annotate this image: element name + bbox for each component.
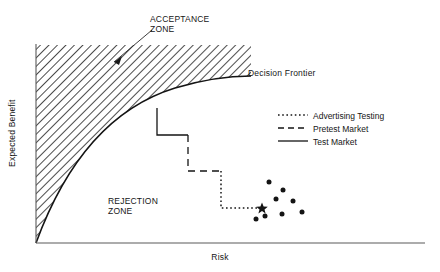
dot <box>254 217 259 222</box>
dot <box>267 180 272 185</box>
figure-canvas: ACCEPTANCE ZONE REJECTION ZONE Decision … <box>0 0 440 272</box>
rejection-zone-label: REJECTION ZONE <box>108 196 158 217</box>
scatter-dots <box>254 180 305 222</box>
dot <box>291 199 296 204</box>
y-axis-label: Expected Benefit <box>7 93 17 173</box>
legend-item-test-market: Test Market <box>313 137 357 147</box>
marker-star <box>256 203 268 214</box>
series-pretest-market <box>188 135 221 171</box>
dot <box>281 188 286 193</box>
dot <box>263 214 268 219</box>
chart-svg <box>0 0 440 272</box>
dot <box>280 212 285 217</box>
series-test-market <box>157 108 188 135</box>
legend-swatches <box>278 115 308 141</box>
dot <box>300 210 305 215</box>
series-advertising-testing <box>221 171 262 208</box>
decision-frontier-label: Decision Frontier <box>248 68 316 78</box>
legend-item-pretest-market: Pretest Market <box>313 124 368 134</box>
dot <box>274 197 279 202</box>
x-axis-label: Risk <box>0 252 440 262</box>
legend-item-advertising-testing: Advertising Testing <box>313 111 384 121</box>
acceptance-zone-label: ACCEPTANCE ZONE <box>150 14 209 35</box>
